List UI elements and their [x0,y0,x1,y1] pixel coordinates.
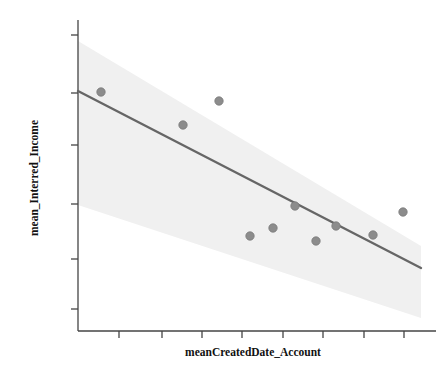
data-point [246,232,254,240]
x-axis-title: meanCreatedDate_Account [185,346,321,358]
chart-canvas: meanCreatedDate_Account mean_Interred_In… [0,0,443,384]
data-point [399,208,407,216]
data-point [369,231,377,239]
data-point [215,97,223,105]
data-point [179,121,187,129]
data-point [291,202,299,210]
data-point [332,222,340,230]
data-point [269,224,277,232]
scatter-plot-figure: meanCreatedDate_Account mean_Interred_In… [0,0,443,384]
data-point [97,88,105,96]
data-point [312,237,320,245]
y-axis-title: mean_Interred_Income [28,120,40,236]
